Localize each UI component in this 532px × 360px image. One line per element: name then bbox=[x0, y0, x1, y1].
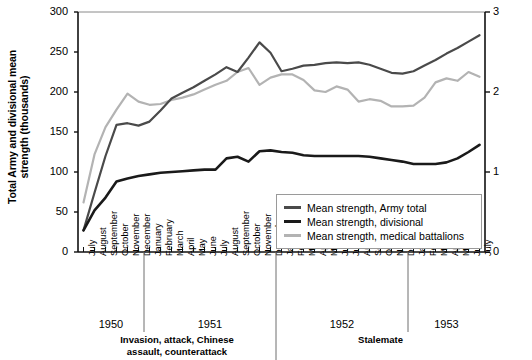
legend-item: Mean strength, Army total bbox=[284, 201, 473, 214]
plot-area bbox=[0, 0, 532, 360]
legend-swatch bbox=[284, 234, 301, 237]
legend-label: Mean strength, medical battalions bbox=[307, 230, 464, 242]
chart-legend: Mean strength, Army totalMean strength, … bbox=[276, 194, 482, 249]
chart-container: Total Army and divisional mean strength … bbox=[0, 0, 532, 360]
legend-item: Mean strength, medical battalions bbox=[284, 229, 473, 242]
legend-item: Mean strength, divisional bbox=[284, 215, 473, 228]
legend-label: Mean strength, Army total bbox=[307, 202, 427, 214]
legend-label: Mean strength, divisional bbox=[307, 216, 423, 228]
legend-swatch bbox=[284, 220, 301, 224]
series-line-2 bbox=[84, 68, 480, 202]
legend-swatch bbox=[284, 206, 301, 209]
